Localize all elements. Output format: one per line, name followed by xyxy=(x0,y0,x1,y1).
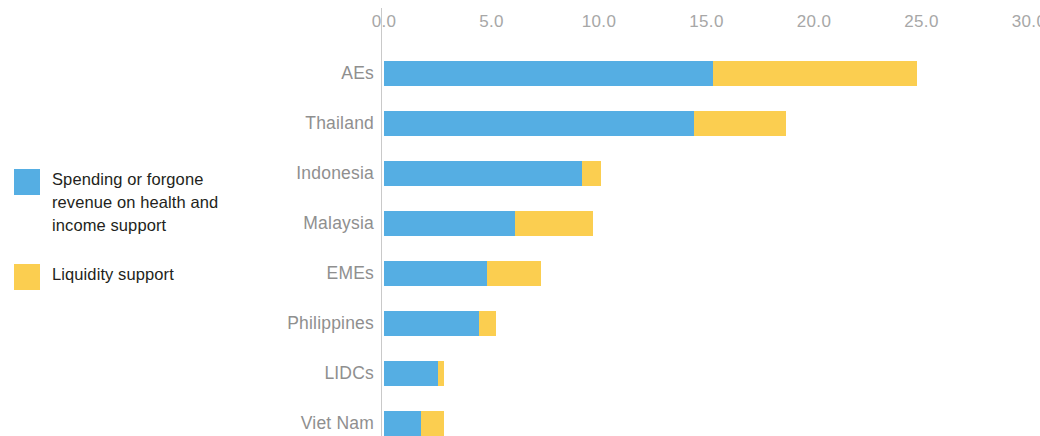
category-label-aes: AEs xyxy=(341,48,374,98)
stacked-bar-chart: Spending or forgone revenue on health an… xyxy=(0,0,1040,436)
bar-row: Indonesia xyxy=(0,148,1040,198)
category-label-indonesia: Indonesia xyxy=(296,148,374,198)
plot-area: 0.05.010.015.020.025.030.0 AEsThailandIn… xyxy=(0,0,1040,436)
category-label-malaysia: Malaysia xyxy=(303,198,374,248)
stacked-bar[interactable] xyxy=(384,61,917,86)
bar-segment-spending[interactable] xyxy=(384,211,515,236)
bar-segment-liquidity[interactable] xyxy=(479,311,496,336)
bar-segment-spending[interactable] xyxy=(384,261,487,286)
stacked-bar[interactable] xyxy=(384,261,541,286)
category-label-emes: EMEs xyxy=(327,248,374,298)
bar-row: Viet Nam xyxy=(0,398,1040,436)
stacked-bar[interactable] xyxy=(384,311,496,336)
x-tick-label-0: 0.0 xyxy=(372,12,397,32)
x-tick-label-6: 30.0 xyxy=(1012,12,1040,32)
category-label-philippines: Philippines xyxy=(287,298,374,348)
stacked-bar[interactable] xyxy=(384,361,444,386)
category-label-viet-nam: Viet Nam xyxy=(301,398,374,436)
bar-row: AEs xyxy=(0,48,1040,98)
x-axis-tick-labels: 0.05.010.015.020.025.030.0 xyxy=(0,12,1040,34)
bar-row: LIDCs xyxy=(0,348,1040,398)
x-tick-label-2: 10.0 xyxy=(582,12,616,32)
bar-segment-liquidity[interactable] xyxy=(487,261,541,286)
bar-segment-liquidity[interactable] xyxy=(713,61,917,86)
bar-rows: AEsThailandIndonesiaMalaysiaEMEsPhilippi… xyxy=(0,48,1040,436)
bar-segment-spending[interactable] xyxy=(384,311,479,336)
category-label-thailand: Thailand xyxy=(305,98,374,148)
bar-row: EMEs xyxy=(0,248,1040,298)
bar-row: Malaysia xyxy=(0,198,1040,248)
bar-segment-spending[interactable] xyxy=(384,61,713,86)
bar-segment-spending[interactable] xyxy=(384,361,438,386)
bar-segment-liquidity[interactable] xyxy=(582,161,601,186)
bar-segment-liquidity[interactable] xyxy=(694,111,786,136)
stacked-bar[interactable] xyxy=(384,111,786,136)
stacked-bar[interactable] xyxy=(384,161,601,186)
bar-segment-spending[interactable] xyxy=(384,161,582,186)
bar-row: Thailand xyxy=(0,98,1040,148)
x-tick-label-5: 25.0 xyxy=(904,12,938,32)
bar-segment-liquidity[interactable] xyxy=(421,411,445,436)
x-tick-label-4: 20.0 xyxy=(797,12,831,32)
stacked-bar[interactable] xyxy=(384,211,593,236)
bar-segment-liquidity[interactable] xyxy=(515,211,592,236)
bar-segment-liquidity[interactable] xyxy=(438,361,444,386)
x-tick-label-1: 5.0 xyxy=(479,12,504,32)
bar-segment-spending[interactable] xyxy=(384,111,694,136)
bar-row: Philippines xyxy=(0,298,1040,348)
bar-segment-spending[interactable] xyxy=(384,411,421,436)
category-label-lidcs: LIDCs xyxy=(324,348,374,398)
stacked-bar[interactable] xyxy=(384,411,444,436)
x-tick-label-3: 15.0 xyxy=(689,12,723,32)
